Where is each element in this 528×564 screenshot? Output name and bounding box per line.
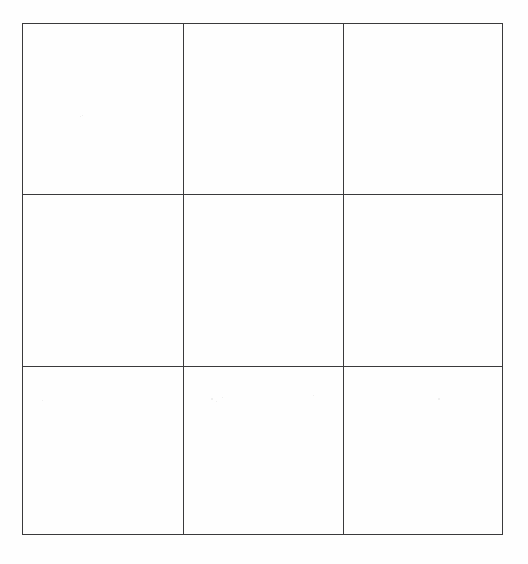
grid-cell-r2c2[interactable] <box>344 367 503 535</box>
grid-cell-text <box>344 367 502 534</box>
grid-cell-text <box>23 195 183 366</box>
grid-cell-text <box>23 367 183 534</box>
grid-cell-text <box>184 24 343 194</box>
grid-cell-text <box>344 195 502 366</box>
grid-cell-text <box>184 367 343 534</box>
grid-cell-r0c2[interactable] <box>344 24 503 195</box>
three-by-three-grid <box>22 23 503 535</box>
clipped-header-text <box>0 0 528 3</box>
grid-cell-text <box>184 195 343 366</box>
grid-cell-text <box>23 24 183 194</box>
grid-cell-text <box>344 24 502 194</box>
grid-cell-r0c0[interactable] <box>23 24 184 195</box>
grid-cell-r1c1[interactable] <box>184 195 344 367</box>
table-row <box>23 195 503 367</box>
grid-cell-r1c2[interactable] <box>344 195 503 367</box>
grid-cell-r1c0[interactable] <box>23 195 184 367</box>
grid-cell-r0c1[interactable] <box>184 24 344 195</box>
grid-cell-r2c1[interactable] <box>184 367 344 535</box>
scanned-page-canvas <box>0 0 528 564</box>
grid-cell-r2c0[interactable] <box>23 367 184 535</box>
table-row <box>23 367 503 535</box>
table-row <box>23 24 503 195</box>
